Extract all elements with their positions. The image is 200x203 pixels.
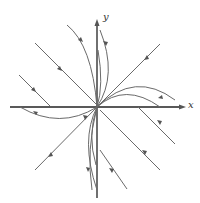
y-axis-label: y (103, 11, 109, 22)
trajectory-ul-1 (35, 43, 96, 104)
curve-top-1 (67, 25, 97, 107)
axes (10, 19, 186, 198)
x-axis-arrow-icon (179, 105, 186, 110)
arrow-icon (158, 95, 163, 99)
phase-portrait (0, 0, 200, 203)
curve-right-1 (97, 95, 160, 108)
arrow-icon (157, 120, 162, 125)
arrow-icon (57, 66, 62, 71)
trajectory-lr-2 (138, 107, 175, 144)
curve-bottom-3 (92, 107, 97, 165)
x-axis-label: x (188, 99, 194, 110)
arrow-icon (86, 167, 90, 172)
trajectory-lr-1 (100, 110, 160, 170)
curve-top-2 (97, 30, 108, 107)
y-axis-arrow-icon (95, 19, 100, 26)
curve-right-2 (97, 87, 175, 107)
